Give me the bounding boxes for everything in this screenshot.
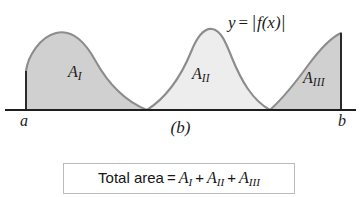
- region-label-a1-subscript: I: [78, 70, 82, 82]
- curve-equation-label: y=|f(x)|: [228, 12, 286, 31]
- curve-label-equals: =: [236, 13, 252, 32]
- abs-bar-right-icon: |: [281, 11, 287, 32]
- region-label-a2: AII: [192, 66, 210, 85]
- total-area-formula-box: Total area = AI + AII + AIII: [63, 163, 295, 194]
- formula-term-a2: AII: [207, 169, 224, 188]
- formula-term-a3: AIII: [239, 169, 260, 188]
- formula-term-a2-subscript: II: [217, 176, 224, 188]
- formula-lead-text: Total area: [98, 169, 164, 186]
- region-label-a3-name: A: [303, 69, 313, 86]
- curve-label-y: y: [228, 13, 236, 32]
- formula-term-a3-subscript: III: [249, 176, 260, 188]
- region-a1-fill: [26, 32, 147, 110]
- total-area-formula-text: Total area = AI + AII + AIII: [98, 169, 260, 188]
- figure-container: y=|f(x)| AI AII AIII a b (b) Total area …: [0, 0, 361, 197]
- formula-term-a3-name: A: [239, 169, 249, 186]
- formula-plus-1: +: [192, 169, 207, 186]
- figure-caption: (b): [0, 119, 361, 136]
- formula-plus-2: +: [224, 169, 239, 186]
- region-label-a2-name: A: [192, 65, 202, 82]
- formula-equals-sign: =: [164, 169, 179, 186]
- formula-term-a1: AI: [179, 169, 193, 188]
- region-label-a1: AI: [68, 64, 82, 83]
- plot-area: y=|f(x)| AI AII AIII a b (b): [0, 0, 361, 140]
- region-label-a2-subscript: II: [202, 72, 210, 84]
- region-label-a3-subscript: III: [313, 76, 325, 88]
- region-label-a3: AIII: [303, 70, 325, 89]
- region-label-a1-name: A: [68, 63, 78, 80]
- formula-term-a2-name: A: [207, 169, 217, 186]
- curve-label-function: f(x): [257, 13, 281, 32]
- formula-term-a1-name: A: [179, 169, 189, 186]
